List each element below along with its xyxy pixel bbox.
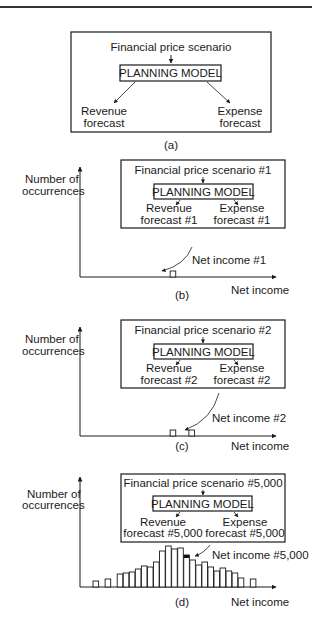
panel-a: Financial price scenario PLANNING MODEL …	[71, 32, 271, 151]
histogram-bars-c	[170, 430, 194, 436]
histogram-bar	[135, 569, 141, 587]
expense-label-line2: forecast #1	[214, 214, 271, 226]
outcome-box	[170, 271, 176, 277]
net-income-arrow	[195, 545, 210, 556]
scenario-label: Financial price scenario #1	[135, 164, 272, 176]
planning-model-label: PLANNING MODEL	[151, 498, 254, 510]
planning-model-label: PLANNING MODEL	[152, 186, 255, 198]
histogram-bar	[250, 579, 256, 587]
histogram-bar	[208, 567, 214, 587]
y-axis-label-line1: Number of	[25, 173, 79, 185]
x-axis-label: Net income	[231, 440, 289, 452]
expense-arrow	[207, 82, 230, 103]
caption-a: (a)	[164, 139, 178, 151]
revenue-label-line1: Revenue	[146, 362, 192, 374]
revenue-arrow	[114, 82, 135, 103]
histogram-bar	[166, 546, 172, 587]
histogram-bar	[172, 549, 178, 587]
histogram-bar	[178, 548, 184, 587]
revenue-label-line2: forecast	[84, 117, 126, 129]
histogram-bars-b	[170, 271, 176, 277]
histogram-bar	[184, 555, 190, 587]
histogram-bar	[160, 551, 166, 587]
planning-model-label: PLANNING MODEL	[152, 346, 255, 358]
revenue-label-line2: forecast #1	[141, 214, 198, 226]
y-axis-label-line2: occurrences	[22, 345, 85, 357]
histogram-bar	[105, 579, 111, 587]
net-income-arrow	[162, 247, 192, 271]
histogram-bar	[141, 566, 147, 587]
histogram-bar	[123, 573, 129, 587]
expense-label-line1: Expense	[218, 105, 263, 117]
revenue-label-line2: forecast #5,000	[123, 527, 202, 539]
histogram-bar	[93, 581, 99, 587]
net-income-label: Net income #2	[212, 412, 286, 424]
panel-d: Number of occurrences Net income Financi…	[22, 474, 309, 608]
expense-label-line2: forecast #5,000	[205, 527, 284, 539]
histogram-bar	[129, 572, 135, 587]
histogram-bar	[202, 562, 208, 587]
histogram-bar	[117, 574, 123, 587]
planning-model-label: PLANNING MODEL	[119, 67, 222, 79]
caption-b: (b)	[175, 289, 189, 301]
panel-b: Number of occurrences Net income Financi…	[22, 160, 289, 301]
histogram-bar	[220, 568, 226, 587]
expense-label-line1: Expense	[220, 202, 265, 214]
histogram-bar	[190, 560, 196, 587]
x-axis-label: Net income	[231, 284, 289, 296]
revenue-label-line1: Revenue	[146, 202, 192, 214]
histogram-bar	[196, 565, 202, 587]
revenue-label-line2: forecast #2	[141, 374, 198, 386]
y-axis-label-line1: Number of	[25, 333, 79, 345]
net-income-label: Net income #5,000	[212, 549, 309, 561]
net-income-label: Net income #1	[192, 254, 266, 266]
caption-d: (d)	[175, 596, 189, 608]
scenario-label: Financial price scenario #2	[135, 324, 272, 336]
scenario-label: Financial price scenario #5,000	[123, 477, 282, 489]
highlighted-outcome-marker	[184, 555, 190, 558]
expense-label-line1: Expense	[220, 362, 265, 374]
histogram-bar	[232, 573, 238, 587]
histogram-bar	[238, 578, 244, 587]
histogram-bar	[226, 571, 232, 587]
revenue-label-line1: Revenue	[81, 105, 127, 117]
histogram-bar	[214, 571, 220, 587]
outcome-box	[170, 430, 176, 436]
x-axis-label: Net income	[231, 596, 289, 608]
y-axis-label-line2: occurrences	[22, 499, 85, 511]
expense-label-line2: forecast #2	[214, 374, 271, 386]
panel-c: Number of occurrences Net income Financi…	[22, 320, 289, 452]
histogram-bar	[147, 567, 153, 587]
histogram-bar	[154, 562, 160, 587]
monte-carlo-diagram: Financial price scenario PLANNING MODEL …	[0, 0, 312, 641]
caption-c: (c)	[175, 440, 189, 452]
expense-label-line2: forecast	[220, 117, 262, 129]
scenario-label: Financial price scenario	[111, 41, 232, 53]
outcome-box	[189, 430, 195, 436]
y-axis-label-line2: occurrences	[22, 185, 85, 197]
